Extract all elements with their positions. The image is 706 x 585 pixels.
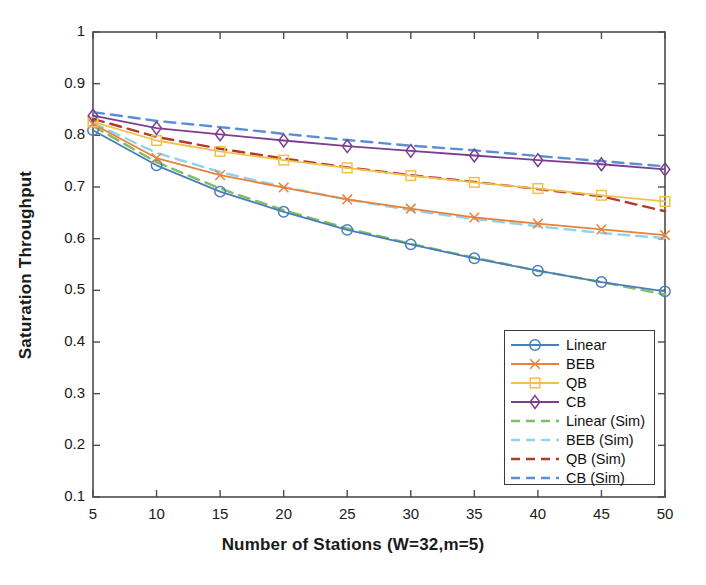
chart-figure: Saturation Throughput Number of Stations… <box>0 0 706 585</box>
legend-line-swatch <box>509 355 561 373</box>
legend-item-linear-sim[interactable]: Linear (Sim) <box>509 411 649 430</box>
series-linear-sim <box>93 126 665 294</box>
x-tick-label: 10 <box>132 505 182 522</box>
legend-item-qb[interactable]: QB <box>509 373 649 392</box>
x-tick-label: 40 <box>513 505 563 522</box>
legend-label: Linear (Sim) <box>561 413 645 429</box>
x-axis-label: Number of Stations (W=32,m=5) <box>0 535 706 555</box>
legend-line-swatch <box>509 431 561 449</box>
series-beb <box>88 119 670 240</box>
x-tick-label: 50 <box>640 505 690 522</box>
x-tick-label: 45 <box>576 505 626 522</box>
y-tick-label: 0.2 <box>30 435 85 452</box>
chart-legend: LinearBEBQBCBLinear (Sim)BEB (Sim)QB (Si… <box>504 330 655 485</box>
legend-item-beb[interactable]: BEB <box>509 354 649 373</box>
series-qb-sim <box>93 119 665 211</box>
y-tick-label: 0.1 <box>30 487 85 504</box>
x-tick-label: 20 <box>259 505 309 522</box>
legend-item-qb-sim[interactable]: QB (Sim) <box>509 449 649 468</box>
legend-label: BEB (Sim) <box>561 432 634 448</box>
series-linear <box>88 125 670 297</box>
y-tick-label: 0.8 <box>30 125 85 142</box>
legend-item-beb-sim[interactable]: BEB (Sim) <box>509 430 649 449</box>
legend-line-swatch <box>509 374 561 392</box>
legend-label: CB (Sim) <box>561 470 625 486</box>
y-tick-label: 0.9 <box>30 74 85 91</box>
x-tick-label: 35 <box>449 505 499 522</box>
legend-label: QB (Sim) <box>561 451 626 467</box>
y-tick-label: 0.5 <box>30 280 85 297</box>
x-tick-label: 25 <box>322 505 372 522</box>
y-tick-label: 0.3 <box>30 384 85 401</box>
y-tick-label: 1 <box>30 22 85 39</box>
y-tick-label: 0.4 <box>30 332 85 349</box>
legend-item-cb[interactable]: CB <box>509 392 649 411</box>
legend-line-swatch <box>509 393 561 411</box>
y-tick-label: 0.7 <box>30 177 85 194</box>
legend-label: BEB <box>561 356 595 372</box>
legend-label: QB <box>561 375 587 391</box>
legend-line-swatch <box>509 336 561 354</box>
plot-canvas <box>0 0 706 585</box>
legend-line-swatch <box>509 450 561 468</box>
series-beb-sim <box>93 123 665 238</box>
x-tick-label: 5 <box>68 505 118 522</box>
series-cb-sim <box>93 112 665 166</box>
legend-line-swatch <box>509 412 561 430</box>
x-tick-label: 15 <box>195 505 245 522</box>
legend-label: CB <box>561 394 586 410</box>
y-tick-label: 0.6 <box>30 229 85 246</box>
legend-item-linear[interactable]: Linear <box>509 335 649 354</box>
legend-label: Linear <box>561 337 606 353</box>
y-axis-label: Saturation Throughput <box>16 170 36 358</box>
legend-item-cb-sim[interactable]: CB (Sim) <box>509 468 649 487</box>
x-tick-label: 30 <box>386 505 436 522</box>
legend-line-swatch <box>509 469 561 487</box>
